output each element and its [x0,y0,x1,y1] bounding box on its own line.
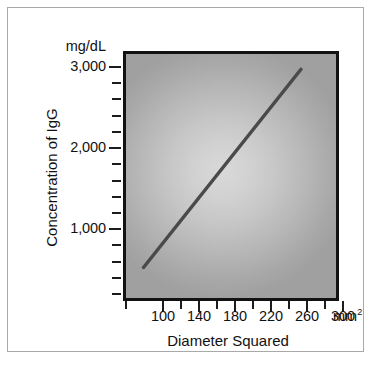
x-axis-unit-label: mm2 [333,308,362,324]
y-axis-tick-major-1000 [109,228,121,230]
x-axis-unit-superscript: 2 [357,307,362,317]
trend-line-svg [126,54,336,298]
y-axis-title: Concentration of IgG [43,53,60,303]
x-axis-tick-origin [125,301,127,309]
y-axis-tick-major-3000 [109,66,121,68]
y-axis-tick-minor [112,98,121,100]
y-axis-tick-minor [112,82,121,84]
y-axis-tick-minor [112,115,121,117]
x-axis-title: Diameter Squared [103,332,353,349]
figure-frame: mg/dL 3,000 2,000 1,000 Concentration of… [7,7,364,352]
y-axis-tick-minor [112,277,121,279]
y-axis-tick-minor [112,131,121,133]
y-axis-tick-minor [112,212,121,214]
plot-area [123,51,339,301]
igg-standard-curve-line [144,69,302,267]
y-axis-tick-minor [112,261,121,263]
y-axis-tick-minor [112,244,121,246]
y-axis-tick-minor [112,180,121,182]
x-axis-unit-text: mm [333,308,357,324]
y-axis-tick-minor [112,163,121,165]
y-axis-tick-major-2000 [109,147,121,149]
y-axis-tick-minor [112,196,121,198]
y-axis-tick-minor [112,293,121,295]
